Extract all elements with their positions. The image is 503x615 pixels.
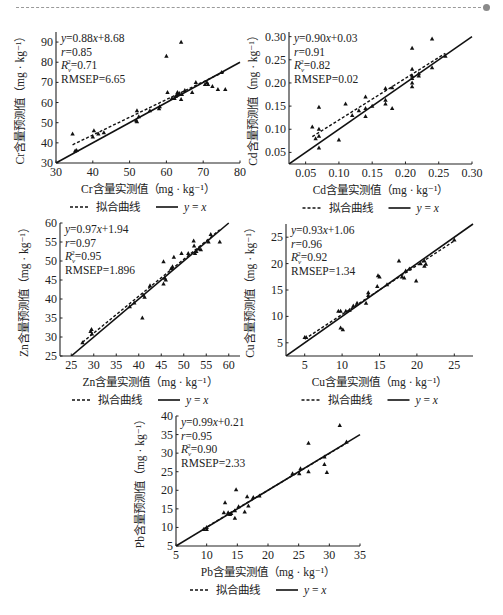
data-point-triangle <box>234 487 238 491</box>
x-tick-label: 70 <box>197 165 209 179</box>
data-point-triangle <box>338 423 342 427</box>
y-tick-label: 0.25 <box>265 53 286 67</box>
x-tick-label: 0.25 <box>428 166 449 180</box>
data-point-triangle <box>191 238 195 242</box>
regression-equation: y=0.88x+8.68 <box>60 32 125 45</box>
y-tick-label: 5 <box>167 539 173 553</box>
x-tick-label: 25 <box>65 358 77 372</box>
x-tick-label: 50 <box>124 165 136 179</box>
data-point-triangle <box>172 255 176 259</box>
legend-identity-label: y = x <box>303 584 327 597</box>
y-tick-label: 55 <box>45 235 57 249</box>
y-tick-label: 25 <box>271 230 283 244</box>
stats-annotation: y=0.97x+1.94r=0.97Rv2=0.95RMSEP=1.896 <box>64 223 135 276</box>
x-tick-label: 20 <box>411 358 423 372</box>
data-point-triangle <box>350 113 354 117</box>
x-tick-label: 35 <box>354 548 366 562</box>
y-tick-label: 35 <box>161 428 173 442</box>
y-tick-label: 60 <box>45 217 57 230</box>
y-tick-label: 0.05 <box>265 145 286 159</box>
data-point-triangle <box>190 90 194 94</box>
y-tick-label: 0.10 <box>265 122 286 136</box>
data-point-triangle <box>317 134 321 138</box>
x-tick-label: 60 <box>223 358 235 372</box>
plot-area: 30405060708030405060708090y=0.88x+8.68r=… <box>13 31 246 214</box>
x-tick-label: 25 <box>293 548 305 562</box>
y-axis-label: Cr含量预测值（mg · kg⁻¹） <box>13 31 27 165</box>
data-point-triangle <box>313 136 317 140</box>
data-point-triangle <box>140 316 144 320</box>
legend: 拟合曲线y = x <box>70 200 207 214</box>
legend-identity-label: y = x <box>415 394 439 407</box>
data-point-triangle <box>322 462 326 466</box>
data-point-triangle <box>306 469 310 473</box>
data-point-triangle <box>164 54 168 58</box>
legend-fit-label: 拟合曲线 <box>96 200 141 213</box>
data-point-triangle <box>242 509 246 513</box>
fit-line <box>312 53 445 136</box>
y-tick-label: 15 <box>161 502 173 516</box>
data-point-triangle <box>161 281 165 285</box>
legend-identity-label: y = x <box>185 394 209 407</box>
data-point-triangle <box>210 84 214 88</box>
data-point-triangle <box>179 97 183 101</box>
x-tick-label: 30 <box>88 358 100 372</box>
y-tick-label: 20 <box>161 483 173 497</box>
x-tick-label: 0.15 <box>362 166 383 180</box>
x-tick-label: 0.30 <box>462 166 483 180</box>
data-point-triangle <box>209 232 213 236</box>
y-tick-label: 25 <box>161 465 173 479</box>
x-tick-label: 5 <box>173 548 179 562</box>
correlation-r: r=0.97 <box>65 237 96 249</box>
y-tick-label: 0.30 <box>265 30 286 44</box>
data-point-triangle <box>410 46 414 50</box>
x-tick-label: 50 <box>178 358 190 372</box>
rmsep: RMSEP=1.34 <box>291 265 356 277</box>
data-point-triangle <box>246 503 250 507</box>
x-tick-label: 40 <box>87 165 99 179</box>
data-point-triangle <box>216 87 220 91</box>
data-point-triangle <box>375 284 379 288</box>
data-point-triangle <box>161 259 165 263</box>
scatter-plot-cu: 510152025510152025y=0.93x+1.06r=0.96Rv2=… <box>242 218 485 412</box>
data-point-triangle <box>410 81 414 85</box>
data-point-triangle <box>233 516 237 520</box>
y-tick-label: 80 <box>41 55 53 69</box>
y-tick-label: 40 <box>161 410 173 423</box>
data-point-triangle <box>170 264 174 268</box>
data-point-triangle <box>363 106 367 110</box>
y-tick-label: 10 <box>271 309 283 323</box>
data-point-triangle <box>70 131 74 135</box>
x-tick-label: 45 <box>155 358 167 372</box>
x-axis-label: Zn含量实测值（mg · kg⁻¹） <box>82 375 217 389</box>
y-tick-label: 30 <box>41 156 53 170</box>
x-tick-label: 0.20 <box>395 166 416 180</box>
stats-annotation: y=0.88x+8.68r=0.85Rv2=0.71RMSEP=6.65 <box>60 32 126 85</box>
regression-equation: y=0.90x+0.03 <box>293 32 358 45</box>
y-axis-label: Cu含量预测值（mg · kg⁻¹） <box>243 222 257 358</box>
x-tick-label: 0.10 <box>328 166 349 180</box>
legend-fit-label: 拟合曲线 <box>328 393 373 406</box>
data-point-triangle <box>410 67 414 71</box>
legend-identity-label: y = x <box>416 202 440 215</box>
scatter-plot-pb: 5101520253035510152025303540y=0.99x+0.21… <box>132 410 372 602</box>
data-point-triangle <box>245 494 249 498</box>
legend-fit-label: 拟合曲线 <box>98 393 143 406</box>
y-tick-label: 40 <box>45 292 57 306</box>
x-tick-label: 10 <box>336 358 348 372</box>
data-point-triangle <box>430 37 434 41</box>
data-point-triangle <box>92 128 96 132</box>
header-dashed-rule <box>16 7 486 8</box>
x-tick-label: 15 <box>231 548 243 562</box>
y-tick-label: 10 <box>161 520 173 534</box>
x-tick-label: 15 <box>374 358 386 372</box>
y-tick-label: 90 <box>41 35 53 49</box>
data-point-triangle <box>298 466 302 470</box>
y-tick-label: 45 <box>45 273 57 287</box>
data-point-triangle <box>192 243 196 247</box>
x-tick-label: 35 <box>110 358 122 372</box>
x-axis-label: Pb含量实测值（mg · kg⁻¹） <box>201 565 335 579</box>
data-point-triangle <box>179 40 183 44</box>
x-axis-label: Cd含量实测值（mg · kg⁻¹） <box>313 183 449 197</box>
x-tick-label: 10 <box>201 548 213 562</box>
